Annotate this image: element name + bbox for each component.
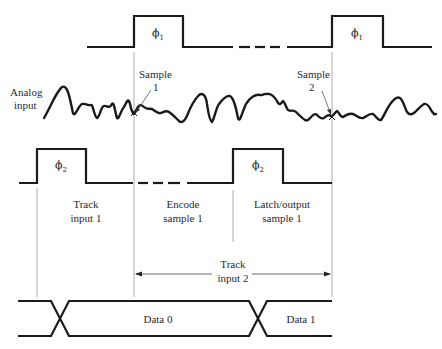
latch-output-label: Latch/output — [254, 198, 310, 210]
analog-input-label-2: input — [14, 99, 37, 111]
phi2-label-2: ϕ2 — [252, 159, 264, 174]
sample1-label: Sample — [139, 68, 172, 80]
encode-sample1-label-2: sample 1 — [163, 212, 202, 224]
data1-label: Data 1 — [286, 313, 315, 325]
phi1-label-2: ϕ1 — [351, 27, 363, 42]
phi1-waveform — [87, 16, 432, 47]
sample2-label-num: 2 — [309, 81, 315, 93]
timing-diagram: ϕ1 ϕ1 Analog input Sample 1 Sample 2 ϕ2 … — [0, 0, 442, 349]
data-bus-waveform — [18, 301, 332, 336]
track-input1-label: Track — [73, 198, 99, 210]
sample2-arrow — [322, 91, 331, 115]
data0-label: Data 0 — [143, 313, 173, 325]
phi1-label-1: ϕ1 — [152, 27, 164, 42]
analog-input-label: Analog — [10, 86, 43, 98]
guide-lines — [37, 52, 332, 297]
track-input2-label: Track — [220, 258, 246, 270]
sample2-label: Sample — [297, 68, 330, 80]
track-input2-label-2: input 2 — [218, 272, 249, 284]
latch-output-label-2: sample 1 — [262, 212, 301, 224]
encode-sample1-label: Encode — [167, 198, 200, 210]
analog-waveform — [44, 87, 436, 122]
sample1-label-num: 1 — [153, 81, 159, 93]
phi2-label-1: ϕ2 — [55, 159, 67, 174]
track-input1-label-2: input 1 — [71, 212, 102, 224]
